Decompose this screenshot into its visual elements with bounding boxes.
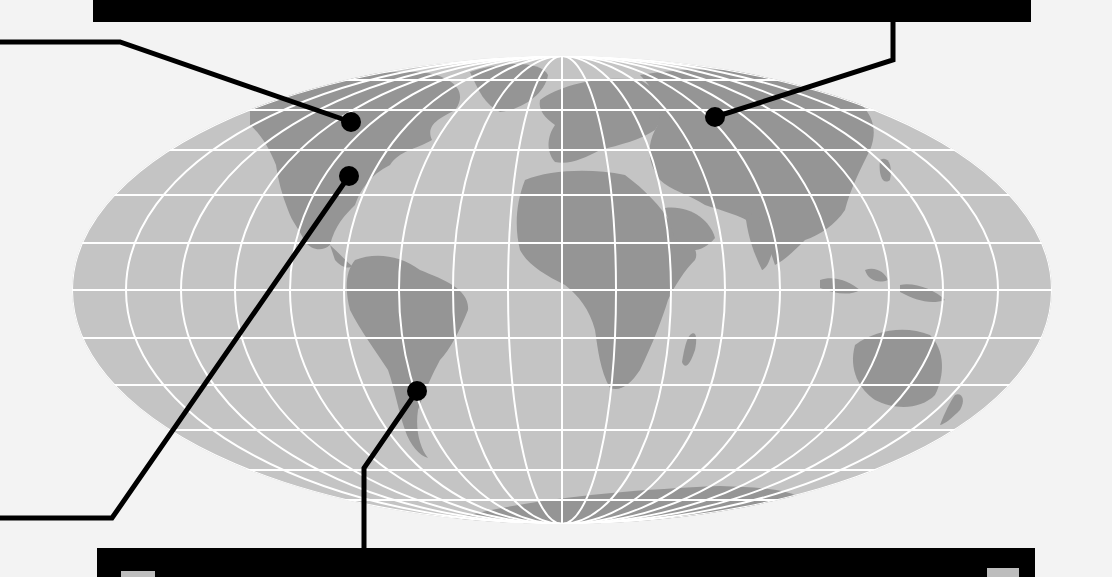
bottom-label-bar <box>97 548 1035 577</box>
map-figure <box>0 0 1112 577</box>
top-label-bar <box>93 0 1031 22</box>
bottom-bar-right-tab <box>987 568 1019 577</box>
top-label-text <box>93 0 1031 22</box>
pin-north-america-north[interactable] <box>341 112 361 132</box>
pin-south-america-south[interactable] <box>407 381 427 401</box>
bottom-bar-left-tab <box>121 571 155 577</box>
bottom-label-text <box>97 548 1035 577</box>
pin-russia[interactable] <box>705 107 725 127</box>
world-map <box>0 0 1112 577</box>
pin-north-america-east[interactable] <box>339 166 359 186</box>
